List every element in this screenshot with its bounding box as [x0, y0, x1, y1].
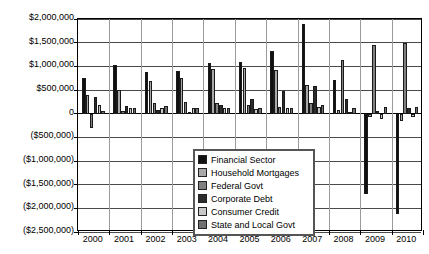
- legend-label: Financial Sector: [211, 155, 276, 165]
- bar: [368, 114, 371, 117]
- legend-item[interactable]: Consumer Credit: [198, 205, 310, 218]
- bar-group: [141, 19, 172, 230]
- bar: [352, 108, 355, 114]
- bar: [396, 114, 399, 214]
- bar: [164, 106, 167, 114]
- bar-group: [360, 19, 391, 230]
- legend: Financial SectorHousehold MortgagesFeder…: [193, 149, 315, 236]
- legend-item[interactable]: Corporate Debt: [198, 192, 310, 205]
- bar: [90, 114, 93, 128]
- bar: [290, 108, 293, 114]
- y-tick-label: 0: [0, 108, 74, 117]
- y-tick-label: ($2,000,000): [0, 202, 74, 211]
- bar: [415, 107, 418, 114]
- bar: [403, 43, 406, 114]
- legend-item[interactable]: State and Local Govt: [198, 218, 310, 231]
- bar: [411, 114, 414, 118]
- bar: [133, 108, 136, 114]
- y-tick-label: ($2,500,000): [0, 226, 74, 235]
- legend-swatch-icon: [198, 168, 207, 177]
- legend-label: Consumer Credit: [211, 207, 279, 217]
- x-tick-label: 2009: [359, 234, 390, 250]
- x-tick-label: 2005: [234, 234, 265, 250]
- legend-swatch-icon: [198, 181, 207, 190]
- legend-label: Household Mortgages: [211, 168, 299, 178]
- x-tick-label: 2000: [77, 234, 108, 250]
- x-tick-label: 2006: [265, 234, 296, 250]
- y-tick-label: ($1,000,000): [0, 155, 74, 164]
- bar: [333, 80, 336, 114]
- legend-item[interactable]: Financial Sector: [198, 153, 310, 166]
- bar: [380, 114, 383, 119]
- bar: [86, 95, 89, 113]
- bar: [258, 108, 261, 114]
- x-tick-mark: [423, 230, 424, 235]
- legend-swatch-icon: [198, 194, 207, 203]
- bar: [227, 108, 230, 113]
- legend-swatch-icon: [198, 220, 207, 229]
- legend-item[interactable]: Household Mortgages: [198, 166, 310, 179]
- legend-swatch-icon: [198, 207, 207, 216]
- bar: [384, 107, 387, 114]
- legend-label: Corporate Debt: [211, 194, 273, 204]
- bar: [372, 45, 375, 114]
- legend-label: State and Local Govt: [211, 220, 295, 230]
- x-tick-label: 2008: [328, 234, 359, 250]
- x-tick-label: 2004: [202, 234, 233, 250]
- bar-group: [109, 19, 140, 230]
- bar-group: [329, 19, 360, 230]
- x-tick-label: 2007: [297, 234, 328, 250]
- y-tick-label: $2,000,000: [0, 13, 74, 22]
- y-tick-label: ($1,500,000): [0, 179, 74, 188]
- bar: [364, 114, 367, 194]
- legend-swatch-icon: [198, 155, 207, 164]
- x-tick-label: 2010: [391, 234, 422, 250]
- bar: [400, 114, 403, 122]
- bar: [101, 111, 104, 114]
- bar-group: [78, 19, 109, 230]
- bar: [321, 105, 324, 114]
- y-tick-label: $1,000,000: [0, 60, 74, 69]
- legend-item[interactable]: Federal Govt: [198, 179, 310, 192]
- x-tick-label: 2001: [108, 234, 139, 250]
- x-axis: 2000200120022003200420052006200720082009…: [77, 234, 422, 250]
- bar: [195, 108, 198, 114]
- bar-group: [392, 19, 423, 230]
- plot-area: Financial SectorHousehold MortgagesFeder…: [77, 18, 422, 231]
- bar-chart: $2,000,000$1,500,000$1,000,000$500,0000(…: [0, 0, 429, 254]
- x-tick-label: 2003: [171, 234, 202, 250]
- y-tick-label: $500,000: [0, 84, 74, 93]
- legend-label: Federal Govt: [211, 181, 263, 191]
- y-tick-label: ($500,000): [0, 131, 74, 140]
- x-tick-label: 2002: [140, 234, 171, 250]
- y-tick-label: $1,500,000: [0, 37, 74, 46]
- y-axis: $2,000,000$1,500,000$1,000,000$500,0000(…: [0, 0, 74, 254]
